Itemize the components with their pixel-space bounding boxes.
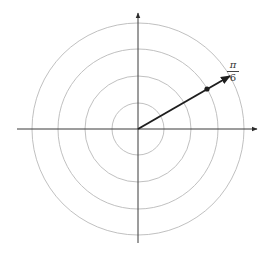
angle-label-denominator: 6 <box>227 72 239 83</box>
angle-label-numerator: π <box>227 60 239 72</box>
polar-diagram <box>0 0 269 258</box>
polar-point <box>204 86 209 91</box>
angle-vector <box>138 76 230 129</box>
angle-label: π 6 <box>227 60 239 83</box>
